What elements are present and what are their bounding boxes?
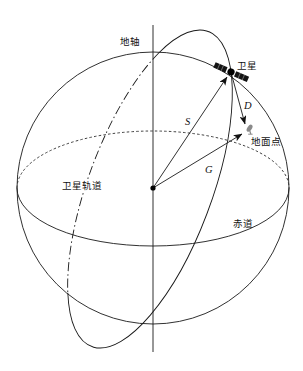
label-satellite: 卫星 (237, 60, 257, 71)
label-satellite-orbit: 卫星轨道 (62, 180, 102, 191)
vector-s-arrow (153, 77, 227, 188)
orbit-back-dashdot (48, 45, 159, 293)
satellite-body (226, 67, 235, 76)
label-vector-s: S (185, 116, 191, 127)
label-ground-point: 地面点 (251, 136, 281, 147)
earth-center-dot (150, 185, 155, 190)
dish-stand (250, 130, 251, 134)
satellite-geometry-diagram: 地轴 卫星 地面点 卫星轨道 赤道 S D G (0, 0, 303, 371)
vector-g-arrow (153, 134, 242, 188)
label-equator: 赤道 (233, 218, 253, 229)
ground-station-icon (245, 124, 253, 135)
label-vector-d: D (243, 100, 252, 111)
solar-panel-left (213, 62, 227, 73)
label-vector-g: G (205, 164, 213, 175)
label-earth-axis: 地轴 (120, 36, 140, 47)
